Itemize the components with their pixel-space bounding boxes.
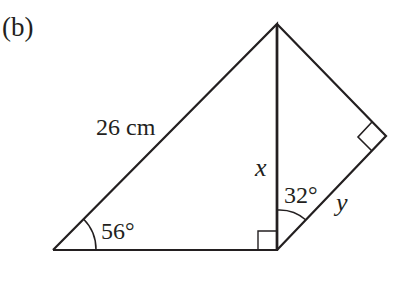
right-triangle (277, 24, 386, 250)
hypotenuse-label: 26 cm (96, 114, 156, 140)
triangle-diagram: (b) 26 cm 56° 32° x y (0, 0, 394, 307)
side-x-label: x (254, 153, 267, 182)
part-label: (b) (2, 12, 33, 42)
left-triangle (53, 24, 277, 250)
angle-arc-32 (277, 210, 306, 220)
side-y-label: y (333, 188, 348, 217)
angle-32-label: 32° (284, 182, 318, 208)
angle-56-label: 56° (101, 218, 135, 244)
right-angle-marker-right (358, 122, 372, 151)
right-angle-marker-bottom (258, 231, 277, 250)
angle-arc-56 (84, 219, 97, 250)
